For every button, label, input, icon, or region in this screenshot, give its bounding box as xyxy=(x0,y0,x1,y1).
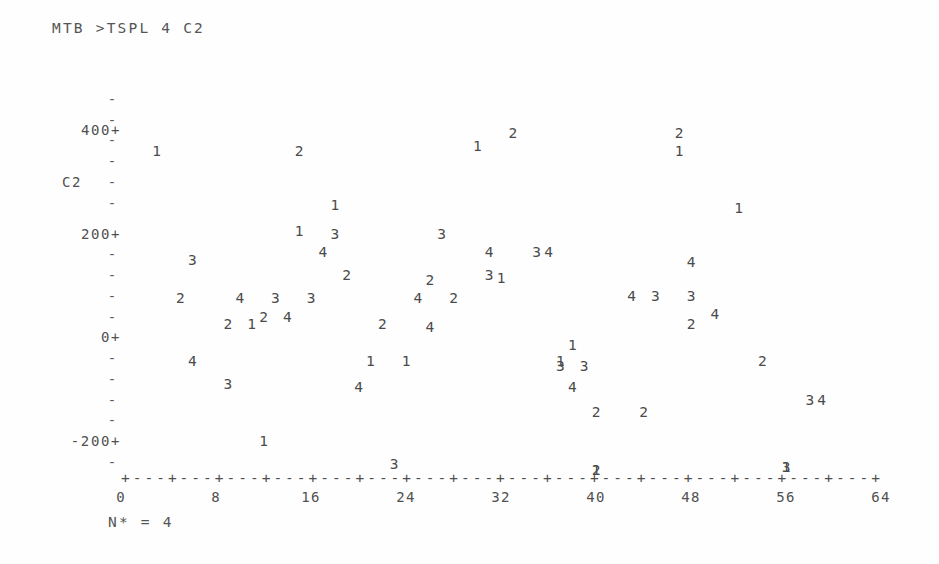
data-point-marker: 4 xyxy=(485,245,494,260)
y-axis-minor-tick: - xyxy=(108,195,116,211)
y-axis-minor-tick: - xyxy=(108,91,116,107)
data-point-marker: 4 xyxy=(687,255,696,270)
data-point-marker: 2 xyxy=(639,405,648,420)
x-axis-tick-label: 40 xyxy=(586,489,605,505)
data-point-marker: 1 xyxy=(152,143,161,158)
y-axis-tick-label: -200+ xyxy=(71,433,121,449)
data-point-marker: 2 xyxy=(592,405,601,420)
y-axis-minor-tick: - xyxy=(108,309,116,325)
y-axis-minor-tick: - xyxy=(108,174,116,190)
data-point-marker: 2 xyxy=(449,291,458,306)
data-point-marker: 4 xyxy=(817,392,826,407)
data-point-marker: 1 xyxy=(675,143,684,158)
data-point-marker: 2 xyxy=(509,125,518,140)
x-axis-line: +---+---+---+---+---+---+---+---+---+---… xyxy=(121,470,883,486)
data-point-marker: 1 xyxy=(568,338,577,353)
data-point-marker: 2 xyxy=(295,143,304,158)
minitab-plot-screen: MTB >TSPL 4 C2 ---------------400+200+0+… xyxy=(0,0,939,564)
data-point-marker: 3 xyxy=(580,359,589,374)
data-point-marker: 3 xyxy=(687,289,696,304)
x-axis-tick-label: 56 xyxy=(776,489,795,505)
data-point-marker: 2 xyxy=(378,317,387,332)
data-point-marker: 1 xyxy=(782,460,791,475)
data-point-marker: 3 xyxy=(437,226,446,241)
x-axis-tick-label: 24 xyxy=(396,489,415,505)
data-point-marker: 2 xyxy=(687,317,696,332)
data-point-marker: 4 xyxy=(425,320,434,335)
y-axis-minor-tick: - xyxy=(108,246,116,262)
data-point-marker: 3 xyxy=(224,377,233,392)
data-point-marker: 3 xyxy=(532,245,541,260)
y-axis-tick-label: 200+ xyxy=(81,226,121,242)
data-point-marker: 3 xyxy=(271,291,280,306)
data-point-marker: 1 xyxy=(366,353,375,368)
x-axis-tick-label: 48 xyxy=(681,489,700,505)
data-point-marker: 2 xyxy=(176,291,185,306)
data-point-marker: 2 xyxy=(425,273,434,288)
data-point-marker: 3 xyxy=(188,252,197,267)
data-point-marker: 1 xyxy=(402,353,411,368)
data-point-marker: 4 xyxy=(188,353,197,368)
y-axis-tick-label: 400+ xyxy=(81,122,121,138)
y-axis-minor-tick: - xyxy=(108,454,116,470)
data-point-marker: 1 xyxy=(247,317,256,332)
data-point-marker: 3 xyxy=(651,289,660,304)
x-axis-tick-label: 16 xyxy=(301,489,320,505)
data-point-marker: 3 xyxy=(805,392,814,407)
data-point-marker: 1 xyxy=(330,198,339,213)
x-axis-tick-label: 64 xyxy=(871,489,890,505)
x-axis-tick-label: 32 xyxy=(491,489,510,505)
y-axis-minor-tick: - xyxy=(108,153,116,169)
data-point-marker: 4 xyxy=(235,291,244,306)
data-point-marker: 4 xyxy=(627,289,636,304)
data-point-marker: 4 xyxy=(568,379,577,394)
y-axis-tick-label: 0+ xyxy=(101,329,121,345)
y-axis-minor-tick: - xyxy=(108,371,116,387)
data-point-marker: 2 xyxy=(224,317,233,332)
y-axis-minor-tick: - xyxy=(108,350,116,366)
data-point-marker: 3 xyxy=(307,291,316,306)
data-point-marker: 3 xyxy=(330,226,339,241)
data-point-marker: 4 xyxy=(354,379,363,394)
data-point-marker: 4 xyxy=(710,307,719,322)
x-axis-tick-label: 8 xyxy=(211,489,221,505)
data-point-marker: 4 xyxy=(414,291,423,306)
data-point-marker: 2 xyxy=(342,268,351,283)
y-axis-title: C2 xyxy=(62,174,82,190)
data-point-marker: 4 xyxy=(319,245,328,260)
missing-values-note: N* = 4 xyxy=(108,514,174,530)
data-point-marker: 4 xyxy=(544,245,553,260)
data-point-marker: 1 xyxy=(473,138,482,153)
x-axis-tick-label: 0 xyxy=(116,489,126,505)
y-axis-minor-tick: - xyxy=(108,288,116,304)
data-point-marker: 1 xyxy=(295,224,304,239)
data-point-marker: 1 xyxy=(259,434,268,449)
data-point-marker: 2 xyxy=(758,353,767,368)
plot-area: ---------------400+200+0+-200+C2+---+---… xyxy=(0,0,939,564)
data-point-marker: 2 xyxy=(592,462,601,477)
data-point-marker: 3 xyxy=(390,457,399,472)
y-axis-minor-tick: - xyxy=(108,412,116,428)
y-axis-minor-tick: - xyxy=(108,267,116,283)
data-point-marker: 4 xyxy=(283,309,292,324)
data-point-marker: 1 xyxy=(734,201,743,216)
data-point-marker: 1 xyxy=(497,270,506,285)
data-point-marker: 3 xyxy=(556,359,565,374)
y-axis-minor-tick: - xyxy=(108,392,116,408)
data-point-marker: 2 xyxy=(259,309,268,324)
data-point-marker: 3 xyxy=(485,268,494,283)
data-point-marker: 2 xyxy=(675,125,684,140)
